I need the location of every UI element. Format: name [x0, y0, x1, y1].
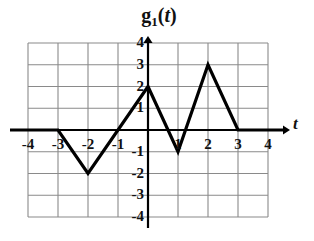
x-axis-label: t: [293, 115, 298, 132]
chart-plot-area: [0, 0, 314, 241]
x-tick-label: 4: [257, 137, 279, 152]
x-tick-label: 1: [167, 137, 189, 152]
y-axis-arrowhead: [143, 36, 152, 43]
y-tick-label: 4: [122, 35, 144, 50]
x-tick-label: 3: [227, 137, 249, 152]
chart-title-base: g: [141, 4, 151, 26]
y-tick-label: -2: [122, 166, 144, 181]
y-tick-label: -3: [122, 187, 144, 202]
y-tick-label: 3: [122, 57, 144, 72]
x-tick-label: -3: [47, 137, 69, 152]
x-tick-label: 2: [197, 137, 219, 152]
x-tick-label: -4: [17, 137, 39, 152]
x-tick-label: -2: [77, 137, 99, 152]
chart-figure: g1(t) t -4-3-2-112344321-1-2-3-4: [0, 0, 314, 241]
y-tick-label: -4: [122, 209, 144, 224]
y-tick-label: 1: [122, 100, 144, 115]
chart-title: g1(t): [104, 4, 214, 33]
y-tick-label: 2: [122, 79, 144, 94]
chart-title-paren-close: ): [170, 4, 177, 26]
y-tick-label: -1: [122, 144, 144, 159]
